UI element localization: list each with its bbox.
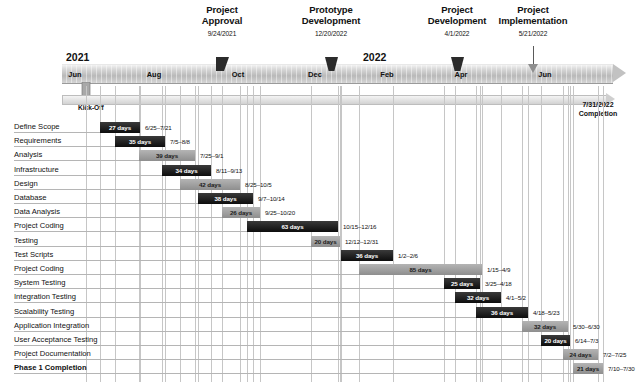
ribbon-texture-stripe (286, 65, 287, 83)
gantt-row[interactable]: Requirements35 days7/5–8/8 (14, 135, 622, 149)
ribbon-texture-stripe (301, 65, 302, 83)
gantt-bar-duration: 38 days (214, 195, 236, 202)
gantt-bar-daterange: 4/1–5/2 (506, 294, 526, 301)
task-label: Testing (14, 236, 38, 245)
gantt-bar-duration: 32 days (534, 323, 556, 330)
milestone-caption: ProjectImplementation5/21/2022 (478, 4, 588, 39)
gantt-bar-duration: 63 days (281, 223, 303, 230)
row-leader-line (14, 231, 247, 232)
gantt-bar[interactable]: 20 days (311, 236, 340, 247)
gantt-bar[interactable]: 63 days (247, 221, 338, 232)
gantt-bar[interactable]: 36 days (476, 307, 528, 318)
gantt-bar-daterange: 10/15–12/16 (343, 223, 376, 230)
gantt-row[interactable]: Phase 1 Completion21 days7/10–7/30 (14, 362, 622, 376)
gantt-bar[interactable]: 85 days (359, 264, 482, 275)
ribbon-texture-stripe (481, 65, 482, 83)
gantt-bar-daterange: 7/2–7/25 (603, 351, 626, 358)
gantt-bar[interactable]: 27 days (100, 122, 140, 133)
gantt-bar-daterange: 8/11–9/13 (216, 167, 242, 174)
gantt-bar[interactable]: 26 days (222, 207, 260, 218)
gantt-bar[interactable]: 24 days (563, 349, 598, 360)
ribbon-texture-stripe (106, 65, 107, 83)
ribbon-texture-stripe (371, 65, 372, 83)
gantt-bar-duration: 36 days (491, 309, 513, 316)
gantt-bar[interactable]: 35 days (115, 136, 165, 147)
ribbon-texture-stripe (306, 65, 307, 83)
gantt-bar[interactable]: 39 days (139, 150, 195, 161)
gantt-row[interactable]: Design42 days8/25–10/5 (14, 178, 622, 192)
gantt-row[interactable]: Integration Testing32 days4/1–5/2 (14, 291, 622, 305)
milestone-caption: PrototypeDevelopment12/20/2022 (276, 4, 386, 39)
ribbon-texture-stripe (341, 65, 342, 83)
ribbon-texture-stripe (376, 65, 377, 83)
gantt-bar[interactable]: 42 days (180, 179, 240, 190)
gantt-bar-duration: 21 days (577, 365, 599, 372)
gantt-bar[interactable]: 34 days (162, 165, 211, 176)
gantt-bar-daterange: 7/5–8/8 (170, 138, 190, 145)
gantt-row[interactable]: Testing20 days12/12–12/31 (14, 235, 622, 249)
ribbon-texture-stripe (66, 65, 67, 83)
gantt-row[interactable]: Scalability Testing36 days4/18–5/23 (14, 306, 622, 320)
ribbon-texture-stripe (226, 65, 227, 83)
gantt-row[interactable]: Project Coding63 days10/15–12/16 (14, 220, 622, 234)
row-leader-line (14, 331, 522, 332)
ribbon-texture-stripe (261, 65, 262, 83)
task-label: Scalability Testing (14, 307, 74, 316)
task-label: Project Coding (14, 264, 64, 273)
ribbon-texture-stripe (181, 65, 182, 83)
ribbon-texture-stripe (476, 65, 477, 83)
row-leader-line (14, 203, 198, 204)
gantt-row[interactable]: Application Integration32 days5/30–6/30 (14, 320, 622, 334)
ribbon-texture-stripe (126, 65, 127, 83)
gantt-row[interactable]: Define Scope27 days6/25–7/21 (14, 121, 622, 135)
gantt-row[interactable]: Data Analysis26 days9/25–10/20 (14, 206, 622, 220)
gantt-bar[interactable]: 25 days (444, 278, 480, 289)
ribbon-texture-stripe (206, 65, 207, 83)
task-label: Phase 1 Completion (14, 363, 87, 372)
ribbon-texture-stripe (296, 65, 297, 83)
ribbon-texture-stripe (211, 65, 212, 83)
gantt-bar[interactable]: 21 days (573, 363, 603, 374)
ribbon-texture-stripe (501, 65, 502, 83)
gantt-bar-daterange: 7/10–7/30 (608, 365, 635, 372)
gantt-bar[interactable]: 36 days (341, 250, 393, 261)
ribbon-texture-stripe (351, 65, 352, 83)
task-label: Application Integration (14, 321, 89, 330)
gantt-row[interactable]: System Testing25 days3/25–4/18 (14, 277, 622, 291)
task-label: Integration Testing (14, 292, 76, 301)
gantt-bar-duration: 42 days (199, 181, 221, 188)
ribbon-texture-stripe (566, 65, 567, 83)
gantt-bar[interactable]: 20 days (541, 335, 570, 346)
gantt-bar-duration: 20 days (544, 337, 566, 344)
ribbon-texture-stripe (136, 65, 137, 83)
milestone-title: Development (276, 15, 386, 26)
ribbon-texture-stripe (91, 65, 92, 83)
ribbon-texture-stripe (171, 65, 172, 83)
gantt-bar-duration: 26 days (230, 209, 252, 216)
gantt-bar[interactable]: 32 days (522, 321, 568, 332)
gantt-row[interactable]: User Acceptance Testing20 days6/14–7/3 (14, 334, 622, 348)
row-leader-line (14, 302, 455, 303)
gantt-bar[interactable]: 32 days (455, 292, 501, 303)
row-leader-line (14, 146, 115, 147)
ribbon-texture-stripe (451, 65, 452, 83)
month-tick-jun-6: Jun (538, 70, 551, 79)
gantt-row[interactable]: Analysis39 days7/25–9/1 (14, 149, 622, 163)
gantt-row[interactable]: Project Coding85 days1/15–4/9 (14, 263, 622, 277)
row-leader-line (14, 217, 222, 218)
gantt-bar-daterange: 9/25–10/20 (265, 209, 295, 216)
task-label: User Acceptance Testing (14, 335, 97, 344)
month-tick-oct-2: Oct (232, 70, 245, 79)
ribbon-texture-stripe (401, 65, 402, 83)
gantt-row[interactable]: Infrastructure34 days8/11–9/13 (14, 164, 622, 178)
ribbon-texture-stripe (201, 65, 202, 83)
gantt-row[interactable]: Test Scripts36 days1/2–2/6 (14, 249, 622, 263)
milestone-title: Project (167, 4, 277, 15)
ribbon-texture-stripe (596, 65, 597, 83)
milestone-title: Implementation (478, 15, 588, 26)
row-leader-line (14, 345, 541, 346)
gantt-bar-duration: 27 days (109, 124, 131, 131)
gantt-row[interactable]: Database38 days9/7–10/14 (14, 192, 622, 206)
gantt-bar[interactable]: 38 days (198, 193, 253, 204)
gantt-row[interactable]: Project Documentation24 days7/2–7/25 (14, 348, 622, 362)
